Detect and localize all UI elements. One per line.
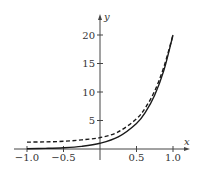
y-tick-label: 10 <box>82 87 95 98</box>
x-tick-label: 0.5 <box>129 152 145 163</box>
y-tick-label: 5 <box>89 115 95 126</box>
x-axis-label: x <box>184 136 190 147</box>
x-axis-arrow-icon <box>184 147 190 151</box>
chart: −1.0−0.50.51.05101520 x y <box>0 0 197 171</box>
x-tick-label: 1.0 <box>165 152 181 163</box>
y-axis-label: y <box>103 11 110 22</box>
x-tick-label: −0.5 <box>51 152 75 163</box>
y-tick-label: 20 <box>82 30 95 41</box>
y-axis-arrow-icon <box>98 14 102 20</box>
axes: −1.0−0.50.51.05101520 <box>14 14 190 163</box>
y-tick-label: 15 <box>82 58 95 69</box>
x-tick-label: −1.0 <box>15 152 39 163</box>
